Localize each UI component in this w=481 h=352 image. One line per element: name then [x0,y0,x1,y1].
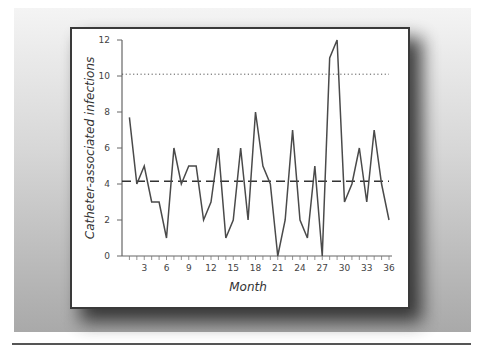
x-tick-label: 6 [164,263,170,273]
x-tick-label: 21 [272,263,283,273]
axes: 024681012369121518212427303336 [99,35,395,273]
data-series [129,40,389,256]
y-tick-label: 6 [104,143,110,153]
y-tick-label: 10 [99,71,111,81]
line-chart: 024681012369121518212427303336 Month Cat… [0,0,481,352]
x-tick-label: 12 [205,263,216,273]
x-tick-label: 3 [141,263,147,273]
x-tick-label: 33 [361,263,372,273]
x-tick-label: 18 [250,263,262,273]
reference-lines [122,74,389,181]
x-tick-label: 27 [317,263,328,273]
y-tick-label: 2 [104,215,110,225]
y-tick-label: 0 [104,251,110,261]
y-tick-label: 12 [99,35,110,45]
x-tick-label: 36 [383,263,395,273]
y-tick-label: 8 [104,107,110,117]
x-tick-label: 9 [186,263,192,273]
y-tick-label: 4 [104,179,110,189]
x-axis-title: Month [229,280,267,294]
series-line [129,40,389,256]
x-tick-label: 30 [339,263,351,273]
x-tick-label: 24 [294,263,306,273]
x-tick-label: 15 [228,263,239,273]
y-axis-title: Catheter-associated infections [83,57,97,240]
